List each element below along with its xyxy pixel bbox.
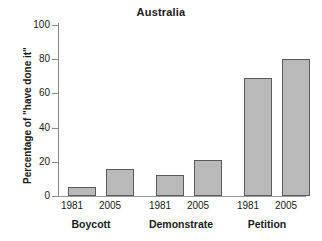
plot-area (58, 25, 305, 196)
y-tick-label-0: 0 (24, 191, 50, 201)
x-tick-label-boycott-2005: 2005 (93, 200, 127, 211)
group-label-demonstrate: Demonstrate (136, 218, 226, 230)
bar-demonstrate-1981[interactable] (156, 175, 184, 196)
x-axis-line (58, 196, 306, 197)
y-tick-label-100: 100 (24, 20, 50, 30)
y-axis-label: Percentage of "have done it" (22, 26, 33, 206)
bar-chart: Australia Percentage of "have done it" 0… (0, 0, 322, 241)
y-tick-label-60: 60 (24, 88, 50, 98)
bar-boycott-1981[interactable] (68, 187, 96, 196)
bar-petition-2005[interactable] (282, 59, 310, 196)
y-tick-label-80: 80 (24, 54, 50, 64)
bar-demonstrate-2005[interactable] (194, 160, 222, 196)
y-tick-mark-0 (52, 196, 58, 197)
bar-boycott-2005[interactable] (106, 169, 134, 196)
x-tick-label-petition-1981: 1981 (231, 200, 265, 211)
x-tick-label-demonstrate-2005: 2005 (181, 200, 215, 211)
x-tick-label-petition-2005: 2005 (269, 200, 303, 211)
y-tick-label-20: 20 (24, 157, 50, 167)
x-tick-label-demonstrate-1981: 1981 (143, 200, 177, 211)
group-label-petition: Petition (231, 218, 303, 230)
y-tick-label-40: 40 (24, 123, 50, 133)
bar-petition-1981[interactable] (244, 78, 272, 196)
x-tick-label-boycott-1981: 1981 (55, 200, 89, 211)
group-label-boycott: Boycott (55, 218, 127, 230)
chart-title: Australia (0, 6, 322, 18)
